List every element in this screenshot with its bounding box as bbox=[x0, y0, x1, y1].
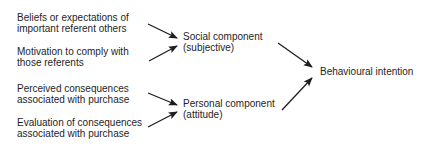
input-perceived-line2: associated with purchase bbox=[17, 94, 129, 105]
input-beliefs: Beliefs or expectations of important ref… bbox=[17, 12, 129, 34]
input-motivation: Motivation to comply with those referent… bbox=[17, 46, 129, 68]
input-beliefs-line1: Beliefs or expectations of bbox=[17, 12, 129, 23]
input-motivation-line1: Motivation to comply with bbox=[17, 46, 129, 57]
social-component-line2: (subjective) bbox=[183, 42, 263, 53]
arrow-motivation-to-social bbox=[149, 46, 177, 61]
arrow-perceived-to-personal bbox=[148, 93, 177, 105]
input-perceived-consequences: Perceived consequences associated with p… bbox=[17, 83, 129, 105]
input-evaluation-consequences: Evaluation of consequences associated wi… bbox=[17, 117, 142, 139]
personal-component-line1: Personal component bbox=[183, 98, 275, 109]
personal-component: Personal component (attitude) bbox=[183, 98, 275, 120]
input-beliefs-line2: important referent others bbox=[17, 23, 129, 34]
personal-component-line2: (attitude) bbox=[183, 109, 275, 120]
arrow-personal-to-intention bbox=[282, 78, 312, 110]
input-evaluation-line2: associated with purchase bbox=[17, 128, 142, 139]
social-component: Social component (subjective) bbox=[183, 31, 263, 53]
input-motivation-line2: those referents bbox=[17, 57, 129, 68]
social-component-line1: Social component bbox=[183, 31, 263, 42]
arrow-social-to-intention bbox=[278, 43, 312, 67]
input-evaluation-line1: Evaluation of consequences bbox=[17, 117, 142, 128]
arrow-beliefs-to-social bbox=[148, 24, 177, 38]
input-perceived-line1: Perceived consequences bbox=[17, 83, 129, 94]
behavioural-intention-label: Behavioural intention bbox=[320, 66, 413, 77]
behavioural-intention: Behavioural intention bbox=[320, 66, 413, 77]
arrow-evaluation-to-personal bbox=[148, 112, 177, 127]
